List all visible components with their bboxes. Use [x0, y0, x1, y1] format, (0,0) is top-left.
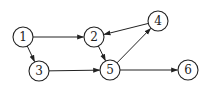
edge-5-to-4 [117, 29, 151, 63]
node-2: 2 [84, 27, 104, 47]
edge-1-to-3 [27, 46, 34, 61]
node-1: 1 [13, 27, 33, 47]
directed-graph: 123456 [0, 0, 210, 88]
edge-2-to-5 [98, 46, 105, 61]
edge-3-to-5 [49, 70, 100, 71]
node-label: 6 [184, 63, 192, 77]
edge-4-to-2 [104, 23, 148, 34]
node-label: 4 [154, 14, 162, 28]
node-3: 3 [29, 61, 49, 81]
node-label: 2 [90, 30, 98, 44]
node-label: 1 [19, 30, 27, 44]
node-label: 5 [106, 63, 114, 77]
node-6: 6 [178, 60, 198, 80]
node-5: 5 [100, 60, 120, 80]
node-label: 3 [35, 64, 43, 78]
node-4: 4 [148, 11, 168, 31]
